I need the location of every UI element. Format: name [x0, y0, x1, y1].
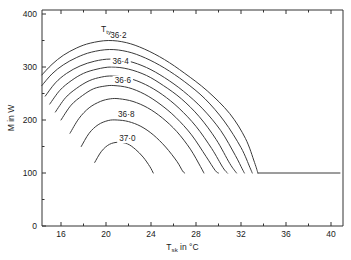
chart-figure: 36·236·436·636·837·0 1620242832364001002…	[0, 0, 351, 260]
y-axis-title: M in W	[6, 105, 16, 131]
x-tick-label: 20	[101, 229, 111, 239]
x-axis-title: Tsk in °C	[166, 242, 198, 253]
x-tick-label: 40	[326, 229, 336, 239]
curve-label: 36·2	[110, 31, 127, 40]
curve-label: 36·8	[118, 110, 135, 119]
x-tick-label: 16	[56, 229, 66, 239]
x-tick-label: 36	[281, 229, 291, 239]
x-tick-label: 24	[146, 229, 156, 239]
curve-label: 36·6	[115, 76, 132, 85]
y-tick-label: 200	[23, 115, 37, 125]
metabolic-rate-vs-skin-temperature-chart: 36·236·436·636·837·0 1620242832364001002…	[0, 0, 351, 260]
x-tick-label: 28	[191, 229, 201, 239]
y-tick-label: 300	[23, 62, 37, 72]
x-tick-label: 32	[236, 229, 246, 239]
y-tick-label: 400	[23, 9, 37, 19]
y-tick-label: 100	[23, 168, 37, 178]
curve-label: 37·0	[119, 134, 136, 143]
curve-label: 36·4	[112, 57, 129, 66]
y-tick-label: 0	[32, 221, 37, 231]
x-axis-title-tail: in °C	[178, 242, 199, 252]
